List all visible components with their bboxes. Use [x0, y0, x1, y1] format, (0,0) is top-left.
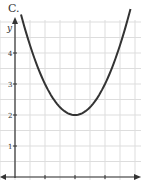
y-tick-label: 1: [8, 143, 12, 151]
parabola-chart: 1234y: [0, 0, 141, 180]
y-tick-label: 3: [8, 81, 12, 89]
y-axis-label: y: [6, 23, 13, 33]
x-axis-arrow-left-icon: [0, 174, 6, 180]
y-tick-label: 4: [8, 50, 13, 58]
y-tick-label: 2: [8, 112, 12, 120]
y-axis-arrow-icon: [12, 17, 18, 24]
